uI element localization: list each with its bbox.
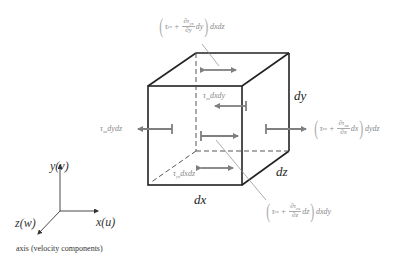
leader-lines	[202, 44, 266, 200]
z-axis	[38, 211, 60, 234]
axis-label-x: x(u)	[96, 216, 115, 228]
cube-edges	[148, 53, 289, 185]
stress-arrows	[138, 70, 306, 168]
stress-element-diagram: ( τyx + ∂τyx∂y dy ) dxdz τzxdxdy τxxdydz…	[0, 0, 396, 261]
right-face-label: ( τxx + ∂τxx∂x dx ) dydz	[313, 118, 380, 138]
axis-caption: axis (velocity components)	[16, 245, 103, 253]
dim-dz: dz	[276, 165, 288, 178]
axis-label-y: y(v)	[50, 160, 69, 172]
dim-dy: dy	[294, 89, 306, 102]
left-face-label: τxxdydz	[100, 125, 122, 134]
coordinate-axes	[38, 165, 98, 234]
top-face-label: ( τyx + ∂τyx∂y dy ) dxdz	[158, 16, 225, 36]
cube-hidden-edges	[150, 53, 289, 183]
back-face-label: τzxdxdy	[203, 92, 225, 101]
front-face-label: ( τzx + ∂τzx∂z dz ) dxdy	[265, 201, 331, 221]
axis-label-z: z(w)	[15, 217, 36, 229]
bottom-face-label: τyxdxdz	[173, 170, 195, 179]
dim-dx: dx	[194, 193, 206, 206]
